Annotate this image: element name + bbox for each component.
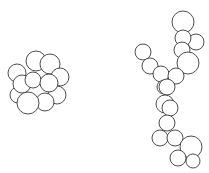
particle-circle	[170, 150, 186, 166]
particle-circle	[152, 130, 168, 146]
particle-circle	[135, 44, 151, 60]
particle-circle	[25, 72, 41, 88]
particle-circle	[159, 79, 175, 95]
chain-cluster	[135, 11, 204, 168]
particle-circle	[40, 74, 58, 92]
particle-circle	[162, 100, 178, 116]
particle-circle	[159, 115, 175, 131]
compact-cluster	[8, 51, 69, 114]
particle-circle	[186, 154, 200, 168]
particle-circle	[17, 92, 39, 114]
particle-aggregate-figure	[0, 0, 209, 173]
